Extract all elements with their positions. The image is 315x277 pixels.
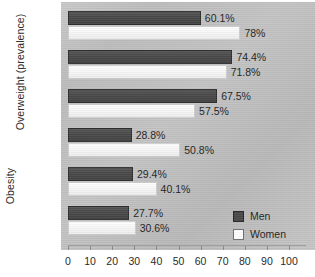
- x-tick: [112, 246, 113, 250]
- bar-value-label: 27.7%: [133, 206, 163, 220]
- bar-value-label: 50.8%: [184, 143, 214, 157]
- bar-men-black: [68, 128, 132, 142]
- axis-title-overweight: Overweight (prevalence): [14, 12, 26, 132]
- bar-value-label: 67.5%: [221, 89, 251, 103]
- bar-value-label: 30.6%: [140, 221, 170, 235]
- bar-women-black: [68, 26, 240, 40]
- bar-men-hispanic: [68, 50, 232, 64]
- x-tick: [179, 246, 180, 250]
- bar-value-label: 60.1%: [205, 11, 235, 25]
- chart-root: Overweight (prevalence) Obesity BlackHis…: [0, 0, 315, 277]
- bar-women-hispanic: [68, 65, 227, 79]
- x-tick: [223, 246, 224, 250]
- legend-label-women: Women: [250, 228, 286, 240]
- bar-value-label: 28.8%: [136, 128, 166, 142]
- bar-women-black: [68, 143, 180, 157]
- bar-value-label: 57.5%: [199, 104, 229, 118]
- x-tick: [289, 246, 290, 250]
- bar-women-hispanic: [68, 182, 157, 196]
- x-tick: [245, 246, 246, 250]
- x-axis-line: [68, 245, 306, 246]
- bar-men-hispanic: [68, 167, 133, 181]
- legend-item-men: Men: [233, 208, 286, 224]
- legend: Men Women: [233, 208, 286, 244]
- bar-women-white: [68, 104, 195, 118]
- axis-title-obesity: Obesity: [4, 146, 16, 226]
- bar-men-white: [68, 89, 217, 103]
- legend-swatch-men-icon: [233, 211, 244, 222]
- x-tick: [267, 246, 268, 250]
- legend-label-men: Men: [250, 210, 270, 222]
- bar-value-label: 29.4%: [137, 167, 167, 181]
- bar-men-black: [68, 11, 201, 25]
- x-tick-label: 100: [274, 255, 304, 267]
- bar-value-label: 78%: [244, 26, 265, 40]
- x-tick: [156, 246, 157, 250]
- x-tick: [134, 246, 135, 250]
- bar-women-white: [68, 221, 136, 235]
- plot-area: 60.1%78%74.4%71.8%67.5%57.5%28.8%50.8%29…: [61, 2, 315, 250]
- bar-men-white: [68, 206, 129, 220]
- bar-value-label: 40.1%: [161, 182, 191, 196]
- x-tick: [90, 246, 91, 250]
- bar-value-label: 74.4%: [236, 50, 266, 64]
- x-tick: [201, 246, 202, 250]
- bar-value-label: 71.8%: [231, 65, 261, 79]
- x-tick: [68, 246, 69, 250]
- legend-swatch-women-icon: [233, 229, 244, 240]
- legend-item-women: Women: [233, 226, 286, 242]
